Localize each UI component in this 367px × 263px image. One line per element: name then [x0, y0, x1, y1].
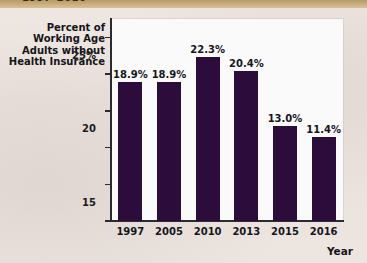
- bar-group-2005: 18.9%2005: [150, 19, 189, 221]
- top-banner: 1997–2016: [0, 0, 367, 8]
- y-tick-label-15: 15: [82, 196, 96, 207]
- bar-value-label-1997: 18.9%: [113, 69, 148, 80]
- bar-series: 18.9%199718.9%200522.3%201020.4%201313.0…: [111, 19, 343, 221]
- x-axis-title: Year: [327, 245, 353, 257]
- banner-title: 1997–2016: [22, 0, 86, 3]
- bar-group-2010: 22.3%2010: [188, 19, 227, 221]
- y-axis-title: Percent of Working Age Adults without He…: [8, 22, 105, 68]
- bar-value-label-2010: 22.3%: [190, 44, 225, 55]
- bar-value-label-2005: 18.9%: [152, 69, 187, 80]
- x-tick-label-2015: 2015: [271, 226, 299, 237]
- bar-value-label-2016: 11.4%: [306, 124, 341, 135]
- bar-group-2015: 13.0%2015: [266, 19, 305, 221]
- bar-1997[interactable]: 18.9%: [118, 82, 142, 221]
- bar-2010[interactable]: 22.3%: [196, 57, 220, 221]
- bar-chart: 0510152025% 18.9%199718.9%200522.3%20102…: [111, 19, 343, 221]
- y-axis-title-line-1: Percent of: [8, 22, 105, 33]
- x-tick-label-2005: 2005: [155, 226, 183, 237]
- x-tick-label-2010: 2010: [194, 226, 222, 237]
- bar-2013[interactable]: 20.4%: [234, 71, 258, 221]
- bar-group-2013: 20.4%2013: [227, 19, 266, 221]
- bar-group-2016: 11.4%2016: [304, 19, 343, 221]
- y-tick-label-25: 25%: [72, 49, 96, 60]
- bar-group-1997: 18.9%1997: [111, 19, 150, 221]
- bar-2015[interactable]: 13.0%: [273, 126, 297, 221]
- bar-2005[interactable]: 18.9%: [157, 82, 181, 221]
- x-tick-label-2013: 2013: [232, 226, 260, 237]
- x-tick-label-1997: 1997: [116, 226, 144, 237]
- x-tick-label-2016: 2016: [310, 226, 338, 237]
- bar-value-label-2013: 20.4%: [229, 58, 264, 69]
- y-axis-title-line-2: Working Age: [8, 33, 105, 44]
- y-tick-label-20: 20: [82, 123, 96, 134]
- bar-value-label-2015: 13.0%: [268, 113, 303, 124]
- bar-2016[interactable]: 11.4%: [312, 137, 336, 221]
